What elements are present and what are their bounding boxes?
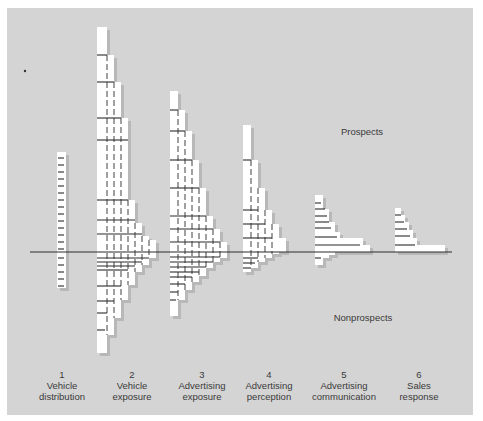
stage-number: 6: [374, 369, 464, 380]
bar-segment: [315, 195, 323, 265]
stage-title-line1: Sales: [374, 380, 464, 391]
bar-segment: [97, 27, 107, 353]
bar-segment: [170, 91, 178, 316]
stage-bar-5: [315, 195, 373, 268]
bar-segment: [243, 125, 251, 272]
nonprospects-label: Nonprospects: [328, 312, 398, 323]
prospects-label: Prospects: [332, 126, 392, 137]
stage-bar-1: [57, 152, 69, 291]
stage-bar-3: [170, 91, 230, 319]
stage-label-6: 6 Sales response: [374, 369, 464, 402]
stage-title-line2: response: [374, 391, 464, 402]
stage-bar-6: [395, 208, 448, 255]
funnel-chart: [0, 0, 483, 421]
stage-bar-2: [97, 27, 159, 356]
dot-mark: [24, 70, 26, 72]
